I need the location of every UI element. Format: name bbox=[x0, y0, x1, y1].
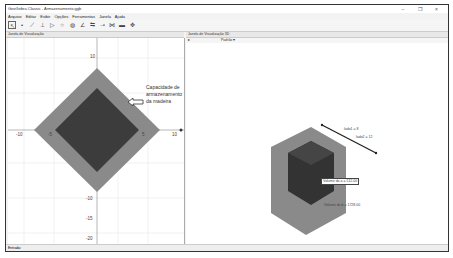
input-bar[interactable]: Entrada: bbox=[6, 244, 448, 251]
x-axis-label-10: 10 bbox=[172, 132, 177, 137]
view3d-style-arrow[interactable]: ▸ bbox=[188, 38, 190, 42]
x-axis-label-neg10: -10 bbox=[16, 132, 23, 137]
menu-ferramentas[interactable]: Ferramentas bbox=[72, 14, 95, 19]
menu-bar: Arquivo Editar Exibir Opções Ferramentas… bbox=[6, 13, 448, 20]
point-tool-icon[interactable]: • bbox=[18, 21, 26, 29]
menu-ajuda[interactable]: Ajuda bbox=[115, 14, 125, 19]
menu-arquivo[interactable]: Arquivo bbox=[8, 14, 22, 19]
view3d-title: Janela de Visualização 3D bbox=[188, 32, 229, 36]
inner-volume-label: Volume da a = 512.00 bbox=[321, 178, 359, 185]
close-button[interactable]: × bbox=[435, 6, 444, 12]
maximize-button[interactable]: ❐ bbox=[418, 6, 428, 12]
move-graphics-tool-icon[interactable]: ✥ bbox=[128, 21, 136, 29]
y-axis-label-neg20: -20 bbox=[86, 236, 93, 241]
view3d-scene bbox=[186, 43, 448, 247]
window-title: GeoGebra Classic - Armazenamento.ggb bbox=[8, 6, 81, 11]
menu-exibir[interactable]: Exibir bbox=[40, 14, 50, 19]
y-axis-label-neg15: -15 bbox=[86, 216, 93, 221]
y-axis-label-neg10: -10 bbox=[86, 196, 93, 201]
x-axis-label-5: 5 bbox=[142, 132, 145, 137]
graphics-view-title: Janela de Visualização bbox=[8, 32, 44, 36]
text-tool-icon[interactable]: ⋈ bbox=[108, 21, 116, 29]
minimize-button[interactable]: – bbox=[402, 6, 411, 12]
input-label: Entrada: bbox=[8, 246, 21, 250]
line-tool-icon[interactable]: ⟋ bbox=[28, 21, 36, 29]
x-axis-label-neg5: -5 bbox=[48, 132, 52, 137]
abc-tool-icon[interactable]: ▬ bbox=[118, 21, 126, 29]
perpendicular-tool-icon[interactable]: ⊥ bbox=[38, 21, 46, 29]
view3d-dropdown-icon[interactable]: ▾ bbox=[233, 38, 235, 42]
window-controls: – ❐ × bbox=[402, 5, 444, 13]
view3d-projection-select[interactable]: Padrão bbox=[221, 38, 232, 42]
title-bar: GeoGebra Classic - Armazenamento.ggb – ❐… bbox=[6, 5, 448, 13]
outer-volume-label: Volume da b = 1728.00 bbox=[324, 203, 360, 208]
menu-editar[interactable]: Editar bbox=[26, 14, 36, 19]
ellipse-tool-icon[interactable]: ◍ bbox=[68, 21, 76, 29]
y-axis-label-10: 10 bbox=[90, 54, 95, 59]
arrow-left-icon bbox=[128, 92, 144, 110]
segment-label-2: lado2 = 12 bbox=[356, 135, 372, 140]
angle-tool-icon[interactable]: ∠ bbox=[78, 21, 86, 29]
graphics-view[interactable]: -10 -5 5 10 10 -10 -15 -20 Capacidade de… bbox=[8, 38, 185, 247]
menu-opcoes[interactable]: Opções bbox=[54, 14, 68, 19]
menu-janela[interactable]: Janela bbox=[99, 14, 111, 19]
graphics-canvas bbox=[8, 38, 184, 247]
move-tool-icon[interactable]: ↖ bbox=[8, 21, 16, 29]
toolbar: ↖ • ⟋ ⊥ ▷ ○ ◍ ∠ ⇋ ⊸ ⋈ ▬ ✥ bbox=[6, 20, 448, 32]
slider-tool-icon[interactable]: ⊸ bbox=[98, 21, 106, 29]
polygon-tool-icon[interactable]: ▷ bbox=[48, 21, 56, 29]
geogebra-window: GeoGebra Classic - Armazenamento.ggb – ❐… bbox=[5, 4, 449, 252]
circle-tool-icon[interactable]: ○ bbox=[58, 21, 66, 29]
segment-label-1: lado1 = 8 bbox=[344, 127, 359, 132]
storage-capacity-annotation: Capacidade de armazenamento da madeira bbox=[146, 84, 182, 105]
view3d-canvas[interactable]: lado1 = 8 lado2 = 12 Volume da a = 512.0… bbox=[186, 43, 448, 247]
reflect-tool-icon[interactable]: ⇋ bbox=[88, 21, 96, 29]
